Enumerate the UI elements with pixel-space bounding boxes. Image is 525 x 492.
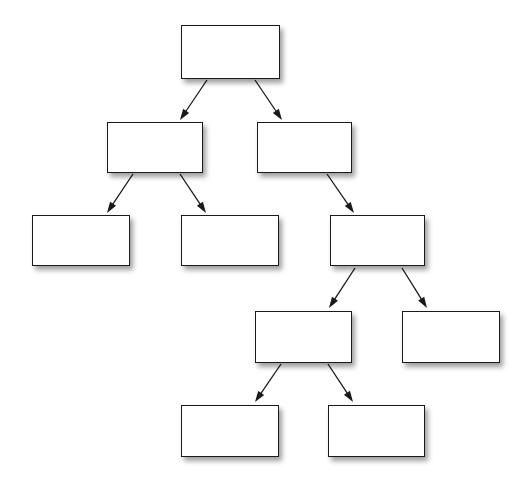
- edge-line: [260, 364, 281, 394]
- edge-line: [185, 80, 207, 112]
- edge-line: [402, 268, 422, 300]
- edge-line: [328, 364, 348, 394]
- edge-line: [327, 174, 349, 205]
- tree-diagram-canvas: [0, 0, 525, 492]
- arrowhead: [197, 202, 206, 213]
- node-box[interactable]: [107, 122, 203, 173]
- edge-line: [255, 80, 277, 112]
- edge-line: [334, 268, 355, 300]
- node-box[interactable]: [255, 311, 352, 363]
- edge-arrow: [180, 174, 206, 213]
- edge-arrow: [255, 80, 282, 120]
- arrowhead: [273, 109, 282, 120]
- edge-arrow: [107, 174, 133, 213]
- node-box[interactable]: [330, 215, 425, 266]
- edge-arrow: [329, 268, 355, 308]
- arrowhead: [344, 391, 353, 402]
- edge-line: [112, 174, 133, 205]
- arrowhead: [345, 202, 354, 213]
- node-box[interactable]: [181, 25, 280, 79]
- edge-arrow: [255, 364, 281, 402]
- arrowhead: [255, 391, 264, 402]
- edge-arrow: [328, 364, 353, 402]
- node-box[interactable]: [181, 215, 279, 266]
- node-box[interactable]: [181, 405, 279, 457]
- node-box[interactable]: [32, 215, 130, 266]
- arrowhead: [329, 297, 338, 308]
- edge-arrow: [180, 80, 207, 120]
- edge-arrow: [402, 268, 427, 308]
- arrowhead: [418, 297, 427, 308]
- node-box[interactable]: [257, 122, 352, 173]
- edge-line: [180, 174, 201, 205]
- node-box[interactable]: [328, 405, 425, 457]
- edge-arrow: [327, 174, 354, 213]
- node-box[interactable]: [402, 311, 500, 363]
- arrowhead: [107, 202, 116, 213]
- arrowhead: [180, 109, 189, 120]
